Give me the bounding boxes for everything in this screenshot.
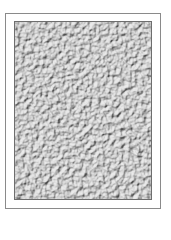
texture-pattern [15,22,151,199]
texture-swatch [14,21,152,200]
texture-fill [15,22,151,199]
